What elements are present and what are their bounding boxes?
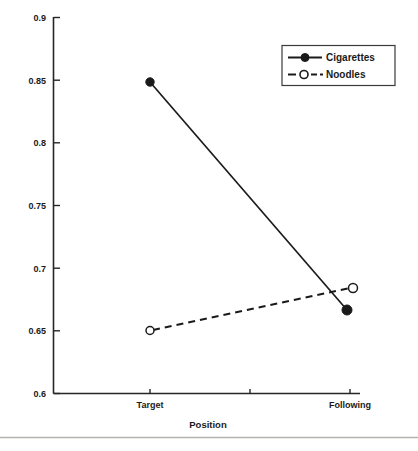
legend-filled-circle-icon [301, 54, 309, 62]
y-tick-label: 0.65 [28, 326, 46, 336]
legend-open-circle-icon [300, 71, 308, 79]
noodles-point-target [146, 327, 154, 335]
y-tick-label: 0.6 [33, 389, 46, 399]
x-tick-label-following: Following [329, 400, 371, 410]
legend-label-cigarettes: Cigarettes [326, 52, 375, 63]
y-tick-label: 0.8 [33, 138, 46, 148]
y-tick-label: 0.7 [33, 264, 46, 274]
x-tick-label-target: Target [137, 400, 164, 410]
y-tick-label: 0.75 [28, 201, 46, 211]
y-tick-label: 0.85 [28, 76, 46, 86]
legend-label-noodles: Noodles [326, 69, 366, 80]
noodles-point-following [349, 284, 358, 293]
line-chart: 0.9 0.85 0.8 0.75 0.7 0.65 0.6 Target Fo… [0, 0, 418, 451]
cigarettes-point-target [146, 78, 154, 86]
cigarettes-point-following [342, 305, 352, 315]
chart-legend: Cigarettes Noodles [282, 46, 395, 86]
chart-figure: 0.9 0.85 0.8 0.75 0.7 0.65 0.6 Target Fo… [0, 0, 418, 451]
y-tick-label: 0.9 [33, 13, 46, 23]
x-axis-title: Position [189, 419, 227, 430]
